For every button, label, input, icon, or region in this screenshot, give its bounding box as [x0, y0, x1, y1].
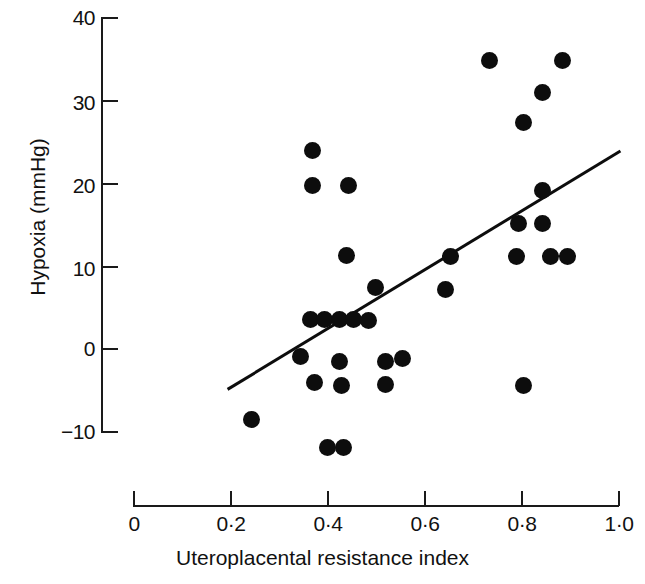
data-point	[481, 52, 498, 69]
data-point	[331, 353, 348, 370]
data-point	[534, 84, 551, 101]
data-point	[304, 142, 321, 159]
data-point	[360, 312, 377, 329]
data-point	[377, 376, 394, 393]
data-point	[338, 247, 355, 264]
data-point	[243, 411, 260, 428]
data-point	[333, 377, 350, 394]
scatter-chart-figure: 40 30 20 10 0 −10 0 0·2 0·4 0·6 0·8 1·0 …	[0, 0, 645, 584]
data-point	[510, 215, 527, 232]
data-point	[319, 439, 336, 456]
data-point	[559, 248, 576, 265]
data-point	[515, 377, 532, 394]
data-point	[377, 353, 394, 370]
data-point	[437, 281, 454, 298]
data-point	[508, 248, 525, 265]
data-point	[554, 52, 571, 69]
plot-area	[0, 0, 645, 584]
data-point	[394, 350, 411, 367]
data-point	[542, 248, 559, 265]
data-point	[534, 215, 551, 232]
data-point	[442, 248, 459, 265]
data-point	[367, 279, 384, 296]
data-point	[292, 348, 309, 365]
